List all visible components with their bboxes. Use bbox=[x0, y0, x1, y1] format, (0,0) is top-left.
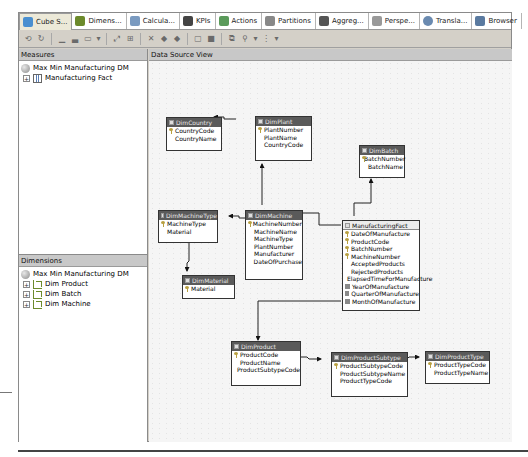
tab-calculations[interactable]: Calcula... bbox=[127, 13, 180, 29]
table-dimproduct[interactable]: DimProduct ProductCode ProductName Produ… bbox=[231, 341, 301, 386]
column[interactable]: CountryCode bbox=[256, 141, 311, 149]
column[interactable]: ProductSubtypeCode bbox=[232, 366, 300, 374]
new-measure-group-icon[interactable]: ▃ bbox=[70, 34, 80, 44]
process-icon[interactable]: ⟲ bbox=[23, 34, 33, 44]
arrange-tables-icon[interactable]: ⧉ bbox=[227, 34, 237, 44]
expand-icon[interactable]: + bbox=[23, 301, 30, 308]
aggregations-icon bbox=[319, 16, 329, 26]
dimension-icon bbox=[33, 300, 42, 309]
move-down-icon[interactable]: ◆ bbox=[172, 34, 182, 44]
dropdown-icon[interactable]: ▾ bbox=[253, 34, 258, 44]
column[interactable]: Material bbox=[183, 285, 234, 293]
refresh-icon[interactable]: ↻ bbox=[36, 34, 46, 44]
table-icon bbox=[345, 223, 350, 228]
column[interactable]: Material bbox=[159, 228, 217, 236]
dimension-dim-batch[interactable]: + Dim Batch bbox=[19, 289, 147, 299]
tab-partitions[interactable]: Partitions bbox=[262, 13, 316, 29]
delete-icon[interactable]: ✕ bbox=[146, 34, 156, 44]
dimension-icon bbox=[33, 290, 42, 299]
column[interactable]: ProductCode bbox=[232, 351, 300, 359]
tab-aggregations[interactable]: Aggreg... bbox=[316, 13, 369, 29]
partitions-icon bbox=[265, 16, 275, 26]
hide-table-icon[interactable]: ■ bbox=[206, 34, 216, 44]
toolbar-separator bbox=[51, 33, 52, 45]
column[interactable]: MachineName bbox=[246, 228, 302, 236]
dropdown-icon[interactable]: ▾ bbox=[274, 34, 279, 44]
column[interactable]: MachineNumber bbox=[343, 253, 419, 261]
measures-cube-node[interactable]: Max Min Manufacturing DM bbox=[19, 63, 147, 73]
column[interactable]: MonthOfManufacture bbox=[343, 298, 419, 306]
column[interactable]: ProductTypeCode bbox=[332, 377, 407, 385]
tab-translations[interactable]: Transla... bbox=[420, 13, 472, 29]
tab-kpis[interactable]: KPIs bbox=[180, 13, 216, 29]
kpis-icon bbox=[183, 16, 193, 26]
table-dimbatch[interactable]: DimBatch BatchNumber BatchName bbox=[359, 145, 405, 178]
column[interactable]: BatchNumber bbox=[360, 155, 404, 163]
tab-dimension-usage[interactable]: Dimens... bbox=[72, 13, 126, 29]
column[interactable]: ElapsedTimeForManufacture bbox=[343, 275, 419, 283]
measure-group-manufacturing-fact[interactable]: + Manufacturing Fact bbox=[19, 73, 147, 83]
column[interactable]: ProductTypeName bbox=[426, 369, 489, 377]
dsv-header: Data Source View bbox=[149, 49, 512, 61]
key-icon bbox=[234, 352, 238, 358]
expand-icon[interactable]: + bbox=[23, 281, 30, 288]
table-dimcountry[interactable]: DimCountry CountryCode CountryName bbox=[166, 117, 222, 151]
table-dimproducttype[interactable]: DimProductType ProductTypeCode ProductTy… bbox=[425, 351, 490, 384]
dimensions-cube-node[interactable]: Max Min Manufacturing DM bbox=[19, 269, 147, 279]
tab-perspectives[interactable]: Perspe... bbox=[369, 13, 420, 29]
column[interactable]: CountryName bbox=[167, 135, 221, 143]
new-measure-icon[interactable]: ▁ bbox=[57, 34, 67, 44]
column[interactable]: ProductSubtypeCode bbox=[332, 362, 407, 370]
tab-actions[interactable]: Actions bbox=[216, 13, 263, 29]
column[interactable]: MachineType bbox=[159, 220, 217, 228]
calculated-column-icon bbox=[345, 291, 349, 296]
measures-pane: Measures Max Min Manufacturing DM + Manu… bbox=[19, 49, 147, 255]
column[interactable]: PlantName bbox=[256, 134, 311, 142]
column[interactable]: BatchName bbox=[360, 163, 404, 171]
column[interactable]: DateOfManufacture bbox=[343, 230, 419, 238]
expand-icon[interactable]: + bbox=[23, 291, 30, 298]
tab-cube-structure[interactable]: Cube S... bbox=[19, 13, 72, 30]
column[interactable]: DateOfPurchase bbox=[246, 258, 302, 266]
table-dimmachinetype[interactable]: DimMachineType MachineType Material bbox=[158, 210, 218, 243]
show-measure-grid-icon[interactable]: ▭ bbox=[83, 34, 93, 44]
table-dimmaterial[interactable]: DimMaterial Material bbox=[182, 275, 235, 299]
column[interactable]: MachineNumber bbox=[246, 220, 302, 228]
key-icon bbox=[258, 127, 262, 133]
measures-header: Measures bbox=[19, 49, 147, 61]
column[interactable]: MachineType bbox=[246, 235, 302, 243]
column[interactable]: QuarterOfManufacture bbox=[343, 290, 419, 298]
column[interactable]: RejectedProducts bbox=[343, 268, 419, 276]
column[interactable]: BatchNumber bbox=[343, 245, 419, 253]
column[interactable]: YearOfManufacture bbox=[343, 283, 419, 291]
dsv-diagram-canvas[interactable]: DimCountry CountryCode CountryName DimPl… bbox=[149, 61, 512, 442]
column[interactable]: Manufacturer bbox=[246, 250, 302, 258]
expand-icon[interactable]: + bbox=[23, 75, 30, 82]
table-dimproductsubtype[interactable]: DimProductSubtype ProductSubtypeCode Pro… bbox=[331, 352, 408, 397]
show-table-icon[interactable]: ▢ bbox=[193, 34, 203, 44]
dimension-dim-product[interactable]: + Dim Product bbox=[19, 279, 147, 289]
column[interactable]: ProductCode bbox=[343, 238, 419, 246]
tab-browser[interactable]: Browser bbox=[472, 13, 521, 29]
column[interactable]: CountryCode bbox=[167, 127, 221, 135]
column[interactable]: ProductName bbox=[232, 359, 300, 367]
dropdown-icon[interactable]: ▾ bbox=[96, 34, 101, 44]
table-dimplant[interactable]: DimPlant PlantNumber PlantName CountryCo… bbox=[255, 116, 312, 161]
add-cube-dimension-icon[interactable]: ⊞ bbox=[125, 34, 135, 44]
data-source-view-pane: Data Source View bbox=[149, 49, 512, 442]
column[interactable]: AcceptedProducts bbox=[343, 260, 419, 268]
column[interactable]: PlantNumber bbox=[256, 126, 311, 134]
column[interactable]: PlantNumber bbox=[246, 243, 302, 251]
move-up-icon[interactable]: ◆ bbox=[159, 34, 169, 44]
new-linked-object-icon[interactable]: ⤢ bbox=[112, 34, 122, 44]
cube-designer-window: Cube S... Dimens... Calcula... KPIs Acti… bbox=[18, 12, 512, 442]
toolbar-separator bbox=[140, 33, 141, 45]
diagram-layout-icon[interactable]: ⋮ bbox=[261, 34, 271, 44]
zoom-icon[interactable]: ⚲ bbox=[240, 34, 250, 44]
table-dimmachine[interactable]: DimMachine MachineNumber MachineName Mac… bbox=[245, 210, 303, 280]
column[interactable]: ProductTypeCode bbox=[426, 361, 489, 369]
column[interactable]: ProductSubtypeName bbox=[332, 370, 407, 378]
table-manufacturingfact[interactable]: ManufacturingFact DateOfManufacture Prod… bbox=[342, 220, 420, 311]
designer-toolbar: ⟲ ↻ ▁ ▃ ▭ ▾ ⤢ ⊞ ✕ ◆ ◆ ▢ ■ ⧉ ⚲ ▾ ⋮ ▾ bbox=[19, 30, 511, 48]
dimension-dim-machine[interactable]: + Dim Machine bbox=[19, 299, 147, 309]
